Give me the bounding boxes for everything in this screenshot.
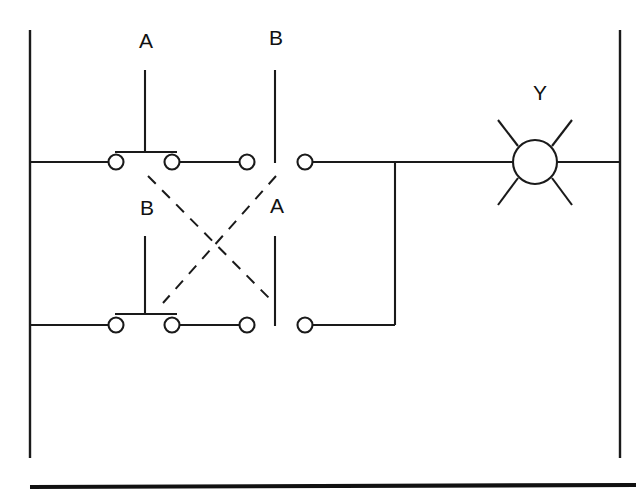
linkage-a-dashed-line <box>148 176 272 301</box>
contact-terminal <box>298 155 313 170</box>
lamp-ray <box>498 178 518 205</box>
mechanical-linkages <box>148 176 276 303</box>
contact-terminal <box>109 318 124 333</box>
contact-terminal <box>165 155 180 170</box>
contact-terminal <box>240 155 255 170</box>
contact-terminals <box>109 155 313 333</box>
rung-wires <box>30 162 620 325</box>
label-lamp-output: Y <box>533 81 547 104</box>
contact-terminal <box>165 318 180 333</box>
switch-top-a[interactable] <box>115 70 177 152</box>
footer-divider-rule <box>30 485 636 487</box>
diagram-labels: A B B A Y <box>139 26 547 219</box>
label-top-right-switch: B <box>269 26 283 49</box>
relay-ladder-diagram: A B B A Y <box>0 0 644 494</box>
label-bottom-left-switch: B <box>140 196 154 219</box>
contact-terminal <box>109 155 124 170</box>
linkage-b-dashed-line <box>163 176 276 303</box>
label-top-left-switch: A <box>139 29 153 52</box>
contact-terminal <box>298 318 313 333</box>
lamp-ray <box>552 120 572 146</box>
switch-bottom-b[interactable] <box>115 236 177 314</box>
lamp-ray <box>552 178 572 205</box>
lamp-bulb-circle <box>513 140 557 184</box>
diagram-canvas: A B B A Y <box>0 0 644 494</box>
lamp-ray <box>498 120 518 146</box>
contact-terminal <box>240 318 255 333</box>
label-bottom-right-switch: A <box>270 194 284 217</box>
